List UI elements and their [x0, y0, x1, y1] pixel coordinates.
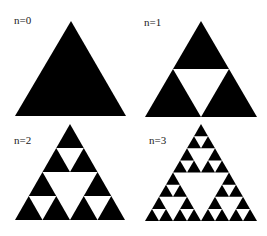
panel-label-n3: n=3: [149, 134, 167, 146]
sierpinski-diagram: n=0 n=1 n=2 n=3: [0, 0, 267, 236]
background: [0, 0, 267, 236]
panel-label-n0: n=0: [14, 14, 32, 26]
panel-label-n2: n=2: [14, 134, 31, 146]
panel-label-n1: n=1: [144, 16, 161, 28]
